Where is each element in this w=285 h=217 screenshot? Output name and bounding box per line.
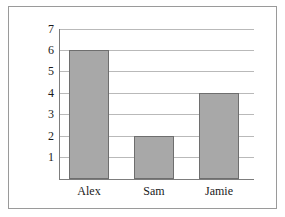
ytick-label-1: 1: [30, 151, 54, 163]
bar-jamie[interactable]: [199, 93, 239, 179]
ytick-label-5: 5: [30, 65, 54, 77]
xtick-label-jamie: Jamie: [194, 184, 244, 198]
ytick-label-6: 6: [30, 44, 54, 56]
ytick-label-2: 2: [30, 130, 54, 142]
bar-alex[interactable]: [69, 50, 109, 179]
bar-chart-plot-area: 1 2 3 4 5 6 7 Alex Sam Jamie: [9, 7, 278, 210]
ytick-label-3: 3: [30, 108, 54, 120]
xtick-label-sam: Sam: [134, 184, 174, 198]
ytick-label-7: 7: [30, 23, 54, 35]
bar-sam[interactable]: [134, 136, 174, 179]
ytick-label-4: 4: [30, 87, 54, 99]
gridline-y-7: [59, 29, 254, 30]
y-axis-line: [59, 29, 60, 180]
chart-frame: 1 2 3 4 5 6 7 Alex Sam Jamie: [8, 6, 277, 209]
x-axis-line: [59, 179, 254, 180]
xtick-label-alex: Alex: [69, 184, 109, 198]
